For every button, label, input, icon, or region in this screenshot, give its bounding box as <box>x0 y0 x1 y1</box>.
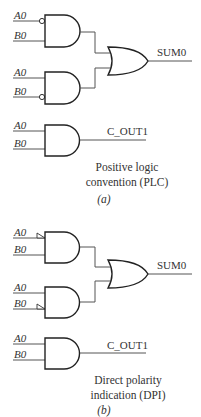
inversion-bubble-icon <box>39 18 44 23</box>
input-label-b0: B0 <box>14 297 27 309</box>
or-gate-b <box>108 260 148 288</box>
caption-line2: indication (DPI) <box>90 389 165 402</box>
input-label-a0: A0 <box>13 9 27 21</box>
output-label-c-out1: C_OUT1 <box>107 125 148 137</box>
output-label-sum0: SUM0 <box>157 46 187 58</box>
and-gate-2-b: A0 B0 <box>13 281 80 318</box>
input-label-b0: B0 <box>14 243 27 255</box>
input-label-a0: A0 <box>13 119 27 131</box>
and-gate-1-b: A0 B0 <box>13 226 80 263</box>
and-gate-2-a: A0 B0 <box>13 66 80 104</box>
and-gate-1-a: A0 B0 <box>13 9 80 47</box>
caption-line1: Direct polarity <box>94 374 162 387</box>
input-label-b0: B0 <box>14 85 27 97</box>
caption-line2: convention (PLC) <box>86 176 169 189</box>
panel-b: A0 B0 A0 B0 SUM0 A0 B0 C_OUT1 Direct pol… <box>13 226 192 417</box>
logic-diagram: A0 B0 A0 B0 SUM0 A0 B0 C_OUT1 Posit <box>0 0 201 417</box>
and-gate-3-b: A0 B0 C_OUT1 <box>13 332 148 369</box>
panel-label-a: (a) <box>97 193 111 206</box>
input-label-a0: A0 <box>13 226 27 238</box>
caption-line1: Positive logic <box>96 161 159 174</box>
input-label-a0: A0 <box>13 332 27 344</box>
output-label-c-out1: C_OUT1 <box>107 339 148 351</box>
input-label-a0: A0 <box>13 66 27 78</box>
output-label-sum0: SUM0 <box>157 259 187 271</box>
or-gate-a <box>108 47 148 75</box>
panel-a: A0 B0 A0 B0 SUM0 A0 B0 C_OUT1 Posit <box>13 9 192 206</box>
polarity-indicator-icon <box>37 233 45 238</box>
panel-label-b: (b) <box>97 404 111 417</box>
input-label-a0: A0 <box>13 281 27 293</box>
input-label-b0: B0 <box>14 137 27 149</box>
input-label-b0: B0 <box>14 29 27 41</box>
input-label-b0: B0 <box>14 348 27 360</box>
and-gate-3-a: A0 B0 C_OUT1 <box>13 119 148 156</box>
inversion-bubble-icon <box>39 94 44 99</box>
polarity-indicator-icon <box>37 304 45 309</box>
